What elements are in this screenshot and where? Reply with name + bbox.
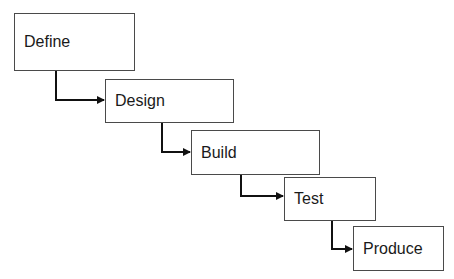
stage-box-define: Define	[14, 13, 135, 71]
stage-box-design: Design	[105, 79, 234, 123]
stage-label: Build	[192, 145, 237, 161]
stage-box-produce: Produce	[353, 226, 444, 271]
arrow-connector-test-to-produce	[332, 221, 352, 249]
stage-label: Test	[285, 191, 323, 207]
stage-box-build: Build	[191, 130, 320, 175]
stage-box-test: Test	[284, 177, 376, 221]
arrow-connector-build-to-test	[241, 175, 283, 196]
stage-label: Produce	[354, 241, 423, 257]
arrow-connector-design-to-build	[162, 123, 190, 152]
arrow-connector-define-to-design	[56, 71, 104, 100]
stage-label: Design	[106, 93, 165, 109]
stage-label: Define	[15, 34, 70, 50]
waterfall-diagram: DefineDesignBuildTestProduce	[0, 0, 454, 279]
